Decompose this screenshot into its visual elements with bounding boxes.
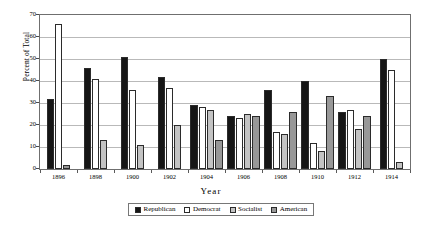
bar-american-1896 (63, 165, 71, 169)
bar-democrat-1914 (388, 70, 396, 169)
bar-republican-1912 (338, 112, 346, 169)
bar-group-1910 (301, 15, 333, 169)
bar-democrat-1906 (236, 118, 244, 169)
bar-socialist-1906 (244, 114, 252, 169)
bar-group-1904 (190, 15, 222, 169)
bar-republican-1904 (190, 105, 198, 169)
x-axis-tick-mark (299, 170, 300, 173)
legend-entry-american[interactable]: American (271, 206, 307, 213)
bar-democrat-1900 (129, 90, 137, 169)
bar-american-1908 (289, 112, 297, 169)
legend-swatch-democrat (184, 207, 190, 213)
bar-socialist-1900 (137, 145, 145, 169)
x-axis-tick-mark (114, 170, 115, 173)
bar-socialist-1904 (207, 110, 215, 169)
x-axis-tick-label-1912: 1912 (336, 173, 373, 181)
bar-american-1906 (252, 116, 260, 169)
y-axis-tick-label: 0 (6, 165, 36, 172)
bar-socialist-1908 (281, 134, 289, 169)
x-axis-tick-mark (151, 170, 152, 173)
bar-group-1902 (158, 15, 182, 169)
x-axis-tick-label-1898: 1898 (77, 173, 114, 181)
bar-republican-1906 (227, 116, 235, 169)
x-axis-tick-label-1902: 1902 (151, 173, 188, 181)
bar-republican-1902 (158, 77, 166, 169)
legend-entry-socialist[interactable]: Socialist (230, 206, 263, 213)
x-axis-tick-label-1908: 1908 (262, 173, 299, 181)
x-axis-tick-mark (262, 170, 263, 173)
bar-american-1904 (215, 140, 223, 169)
x-axis-tick-mark (188, 170, 189, 173)
y-axis-tick-label: 40 (6, 77, 36, 84)
x-axis-tick-label-1906: 1906 (225, 173, 262, 181)
bar-republican-1908 (264, 90, 272, 169)
y-axis-tick-label: 30 (6, 99, 36, 106)
bar-democrat-1908 (273, 132, 281, 169)
legend-swatch-american (271, 207, 277, 213)
legend-swatch-republican (135, 207, 141, 213)
bar-group-1900 (121, 15, 145, 169)
legend-entry-republican[interactable]: Republican (135, 206, 175, 213)
bar-american-1912 (363, 116, 371, 169)
x-axis-tick-mark (336, 170, 337, 173)
y-axis-tick-labels: 010203040506070 (0, 14, 36, 170)
y-axis-tick-label: 60 (6, 33, 36, 40)
bar-democrat-1896 (55, 24, 63, 169)
x-axis-tick-mark (225, 170, 226, 173)
legend-label-republican: Republican (144, 206, 176, 213)
bar-republican-1910 (301, 81, 309, 169)
bar-republican-1898 (84, 68, 92, 169)
x-axis-tick-label-1904: 1904 (188, 173, 225, 181)
x-axis-tick-mark (410, 170, 411, 173)
x-axis-tick-labels: 1896189819001902190419061908191019121914 (40, 173, 410, 185)
bar-democrat-1910 (310, 143, 318, 169)
bar-republican-1914 (380, 59, 388, 169)
bar-group-1912 (338, 15, 370, 169)
x-axis-title: Year (0, 186, 422, 196)
bar-american-1910 (326, 96, 334, 169)
x-axis-tick-label-1896: 1896 (40, 173, 77, 181)
x-axis-tick-label-1910: 1910 (299, 173, 336, 181)
bar-socialist-1898 (100, 140, 108, 169)
bar-socialist-1912 (355, 129, 363, 169)
y-axis-tick-label: 10 (6, 143, 36, 150)
bar-group-1914 (380, 15, 404, 169)
bar-democrat-1912 (347, 110, 355, 169)
legend-entry-democrat[interactable]: Democrat (184, 206, 220, 213)
bar-chart: Percent of Total 010203040506070 1896189… (0, 0, 422, 229)
x-axis-tick-mark (373, 170, 374, 173)
bars-layer (40, 15, 410, 169)
legend-label-socialist: Socialist (238, 206, 262, 213)
x-axis-tick-label-1900: 1900 (114, 173, 151, 181)
bar-group-1908 (264, 15, 296, 169)
x-axis-tick-mark (77, 170, 78, 173)
bar-group-1896 (47, 15, 71, 169)
bar-group-1906 (227, 15, 259, 169)
legend-swatch-socialist (230, 207, 236, 213)
x-axis-tick-label-1914: 1914 (373, 173, 410, 181)
bar-democrat-1898 (92, 79, 100, 169)
bar-socialist-1910 (318, 151, 326, 169)
legend-label-american: American (280, 206, 308, 213)
y-axis-tick-label: 50 (6, 55, 36, 62)
bar-republican-1900 (121, 57, 129, 169)
bar-republican-1896 (47, 99, 55, 169)
x-axis-tick-mark (40, 170, 41, 173)
y-axis-tick-label: 70 (6, 11, 36, 18)
bar-democrat-1902 (166, 88, 174, 169)
y-axis-tick-label: 20 (6, 121, 36, 128)
bar-group-1898 (84, 15, 108, 169)
bar-socialist-1914 (396, 162, 404, 169)
legend-label-democrat: Democrat (193, 206, 221, 213)
bar-socialist-1902 (174, 125, 182, 169)
chart-legend: RepublicanDemocratSocialistAmerican (128, 203, 314, 216)
bar-democrat-1904 (199, 107, 207, 169)
